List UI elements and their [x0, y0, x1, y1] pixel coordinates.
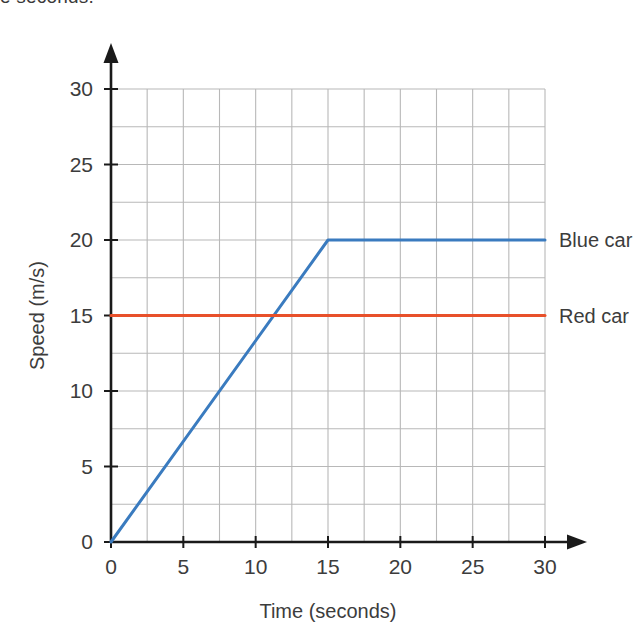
x-axis-tick-label: 25 [461, 555, 484, 578]
y-axis-title: Speed (m/s) [26, 261, 48, 370]
y-axis-tick-label: 5 [81, 455, 93, 478]
y-axis-tick-label: 15 [70, 304, 93, 327]
y-axis-tick-label: 25 [70, 153, 93, 176]
speed-time-chart: 051015202530051015202530 Blue carRed car… [0, 0, 643, 635]
axes [104, 43, 588, 550]
x-axis-tick-label: 10 [244, 555, 267, 578]
series-labels: Blue carRed car [559, 229, 633, 327]
y-axis-tick-label: 10 [70, 379, 93, 402]
series-label-red-car: Red car [559, 305, 629, 327]
y-axis-tick-label: 30 [70, 77, 93, 100]
x-axis-arrowhead [567, 535, 587, 550]
x-axis-tick-label: 5 [177, 555, 189, 578]
chart-canvas: 051015202530051015202530 Blue carRed car… [0, 0, 643, 635]
y-axis-arrowhead [104, 43, 119, 63]
axis-tick-labels: 051015202530051015202530 [70, 77, 557, 578]
x-axis-tick-label: 30 [533, 555, 556, 578]
axis-ticks [104, 89, 545, 548]
y-axis-tick-label: 20 [70, 228, 93, 251]
y-axis-tick-label: 0 [81, 530, 93, 553]
x-axis-tick-label: 0 [105, 555, 117, 578]
x-axis-tick-label: 15 [316, 555, 339, 578]
x-axis-title: Time (seconds) [259, 600, 396, 622]
x-axis-tick-label: 20 [389, 555, 412, 578]
series-label-blue-car: Blue car [559, 229, 633, 251]
